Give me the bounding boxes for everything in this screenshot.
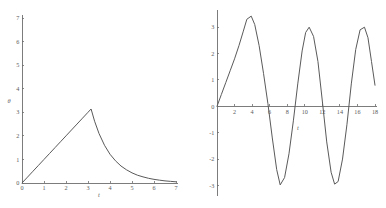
y-tick-label: 2 (211, 50, 214, 57)
x-tick-label: 4 (108, 184, 111, 191)
y-tick-label: 4 (16, 85, 19, 92)
x-tick-label: 14 (337, 108, 343, 115)
left-plot-canvas: 01234567 01234567 t θ (0, 0, 193, 208)
right-plot-canvas: 24681012141618 -3-2-10123 t (193, 0, 386, 208)
x-tick-label: 2 (64, 184, 67, 191)
y-tick-label: 1 (211, 76, 214, 83)
data-curve (22, 109, 176, 183)
y-tick-label: 5 (16, 61, 19, 68)
y-axis-title: θ (7, 97, 10, 104)
x-tick-label: 0 (20, 184, 23, 191)
two-panel-figure: 01234567 01234567 t θ 24681012141618 -3-… (0, 0, 386, 208)
x-axis-title: t (297, 124, 299, 131)
y-tick-label: -1 (209, 129, 214, 136)
x-tick-group: 24681012141618 (233, 104, 378, 115)
x-axis-title: t (98, 191, 100, 198)
y-tick-label: 0 (211, 103, 214, 110)
y-tick-label: -3 (209, 182, 214, 189)
y-tick-label: 1 (16, 156, 19, 163)
x-tick-label: 4 (251, 108, 254, 115)
y-tick-label: 7 (16, 14, 19, 21)
x-tick-label: 3 (86, 184, 89, 191)
y-tick-group: 01234567 (16, 14, 24, 186)
x-tick-label: 7 (174, 184, 177, 191)
chart-panel-right: 24681012141618 -3-2-10123 t (193, 0, 386, 208)
chart-panel-left: 01234567 01234567 t θ (0, 0, 193, 208)
y-tick-group: -3-2-10123 (209, 23, 219, 188)
y-tick-label: 3 (16, 108, 19, 115)
x-tick-label: 18 (372, 108, 378, 115)
x-tick-label: 1 (42, 184, 45, 191)
x-tick-label: 6 (152, 184, 155, 191)
x-tick-group: 01234567 (20, 181, 177, 192)
y-tick-label: 0 (16, 179, 19, 186)
x-tick-label: 12 (319, 108, 325, 115)
y-tick-label: 6 (16, 38, 19, 45)
y-tick-label: -2 (209, 155, 214, 162)
x-tick-label: 10 (302, 108, 308, 115)
x-tick-label: 2 (233, 108, 236, 115)
x-tick-label: 5 (130, 184, 133, 191)
x-tick-label: 16 (354, 108, 360, 115)
x-tick-label: 8 (286, 108, 289, 115)
y-tick-label: 3 (211, 23, 214, 30)
data-curve (217, 16, 375, 185)
y-tick-label: 2 (16, 132, 19, 139)
